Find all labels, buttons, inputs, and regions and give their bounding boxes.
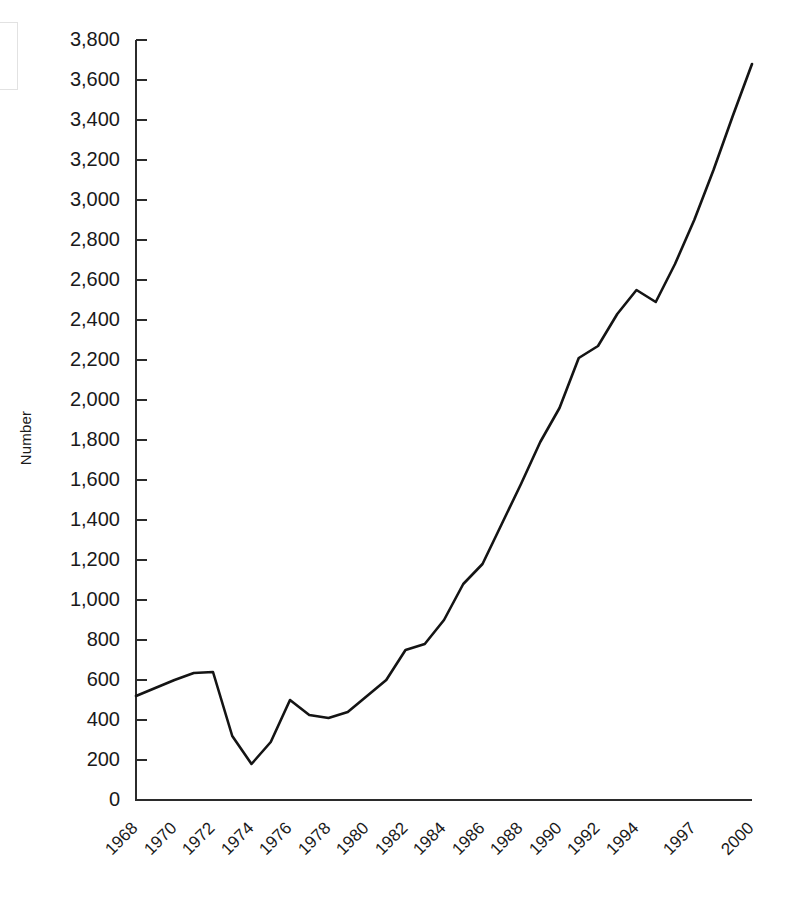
plot-area [0, 0, 794, 905]
axis-spine-path [136, 40, 752, 800]
y-axis-tick-marks [136, 40, 147, 760]
chart-figure: Number 3,8003,6003,4003,2003,0002,8002,6… [0, 0, 794, 905]
data-series-line [136, 64, 752, 764]
axis-spines [136, 40, 752, 800]
